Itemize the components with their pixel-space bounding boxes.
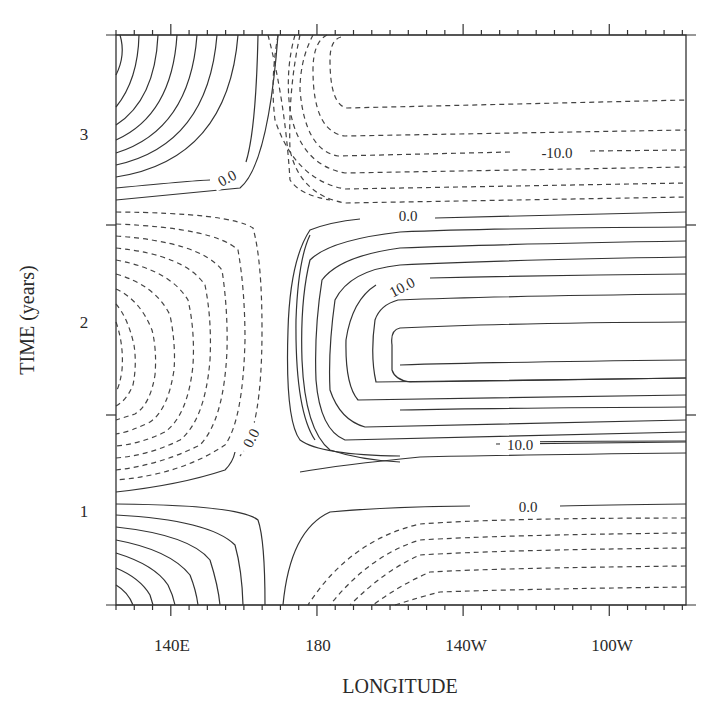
y-tick-label-3: 3 bbox=[80, 125, 89, 144]
y-axis-title: TIME (years) bbox=[16, 265, 39, 374]
y-tick-label-1: 1 bbox=[80, 502, 89, 521]
contour-label-minus10: -10.0 bbox=[541, 145, 572, 161]
contour-label-0-se: 0.0 bbox=[519, 499, 538, 515]
x-tick-label-180: 180 bbox=[305, 636, 331, 655]
contour-lines bbox=[116, 35, 686, 605]
y-tick-labels: 3 2 1 bbox=[80, 125, 89, 521]
contour-label-10-lower: 10.0 bbox=[507, 437, 533, 453]
plot-frame bbox=[116, 35, 686, 605]
x-tick-label-140w: 140W bbox=[445, 636, 488, 655]
y-tick-label-2: 2 bbox=[80, 313, 89, 332]
x-axis-title: LONGITUDE bbox=[342, 675, 458, 697]
x-tick-label-100w: 100W bbox=[591, 636, 634, 655]
x-tick-label-140e: 140E bbox=[154, 636, 190, 655]
x-tick-labels: 140E 180 140W 100W bbox=[154, 636, 634, 655]
contour-label-0-ne: 0.0 bbox=[399, 208, 418, 224]
hovmoller-contour-chart: 140E 180 140W 100W 3 2 1 LONGITUDE TIME … bbox=[0, 0, 718, 713]
